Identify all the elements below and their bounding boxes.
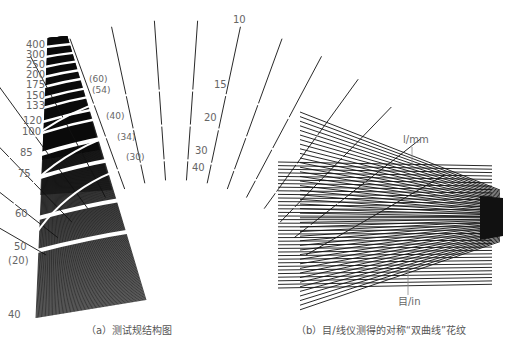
lpi-label: 85 — [20, 148, 33, 158]
lpi-label: (20) — [8, 256, 29, 266]
lpmm-label: (34) — [117, 133, 135, 142]
caption-b: （b）目/线仪测得的对称“双曲线”花纹 — [296, 322, 466, 337]
fan-label: 40 — [192, 163, 205, 173]
diagram-canvas: 400 300 250 200 175 150 133 120 100 85 7… — [0, 0, 509, 348]
fan-label: 20 — [204, 113, 217, 123]
lpmm-label: (30) — [126, 153, 144, 162]
fan-label: 15 — [214, 80, 227, 90]
lpi-label: 133 — [26, 101, 45, 111]
lpi-label: 100 — [22, 127, 41, 137]
lpi-label: 40 — [8, 310, 21, 320]
lpi-label: 50 — [14, 242, 27, 252]
lpi-axis-label: 目/in — [398, 297, 421, 307]
lpmm-label: (40) — [106, 112, 124, 121]
lpmm-label: (60) — [89, 75, 107, 84]
line-gauge-drawing — [0, 0, 509, 348]
caption-a: （a）测试规结构图 — [86, 322, 172, 337]
lpmm-label: (54) — [92, 86, 110, 95]
lpmm-axis-label: l/mm — [403, 135, 429, 145]
lpi-label: 60 — [15, 209, 28, 219]
lpi-label: 175 — [26, 80, 45, 90]
fan-label: 10 — [233, 15, 246, 25]
fan-label: 30 — [195, 146, 208, 156]
lpi-label: 120 — [23, 116, 42, 126]
lpi-label: 75 — [18, 169, 31, 179]
